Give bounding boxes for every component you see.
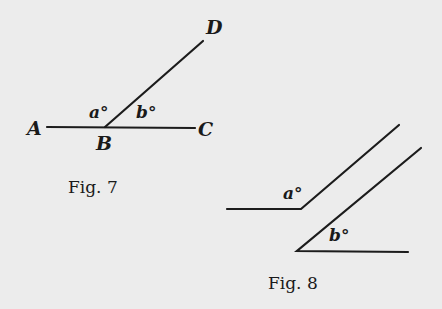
angle-label-a: a° (89, 102, 109, 122)
line-ac (47, 127, 195, 128)
angle-label-b: b° (329, 225, 349, 245)
figure-7: A C B D a° b° Fig. 7 (25, 16, 223, 197)
point-label-c: C (198, 118, 213, 140)
figure-caption-7: Fig. 7 (68, 177, 118, 197)
geometry-figures: A C B D a° b° Fig. 7 a° b° Fig. 8 (0, 0, 442, 309)
point-label-a: A (25, 117, 42, 139)
figure-8: a° b° Fig. 8 (227, 125, 421, 293)
point-label-b: B (95, 132, 112, 154)
angle-b-sides (297, 148, 421, 252)
point-label-d: D (205, 16, 223, 38)
angle-a-sides (227, 125, 399, 209)
figure-caption-8: Fig. 8 (268, 273, 318, 293)
angle-label-b: b° (136, 102, 156, 122)
angle-label-a: a° (283, 183, 303, 203)
diagram-canvas: A C B D a° b° Fig. 7 a° b° Fig. 8 (0, 0, 442, 309)
